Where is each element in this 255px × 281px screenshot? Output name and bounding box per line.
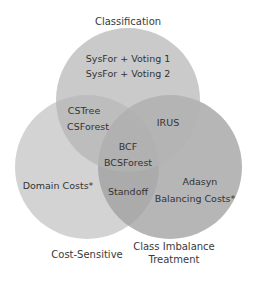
region-item: Adasyn <box>183 176 218 188</box>
region-item: SysFor + Voting 1 <box>86 53 171 65</box>
region-item: CSForest <box>67 121 109 133</box>
region-item: BCSForest <box>104 157 152 169</box>
region-item: Balancing Costs* <box>155 193 236 205</box>
region-item: SysFor + Voting 2 <box>86 68 171 80</box>
region-item: CSTree <box>68 105 100 117</box>
region-item: IRUS <box>157 117 179 129</box>
region-item: BCF <box>119 141 137 153</box>
classification-set-label: Classification <box>95 16 161 28</box>
region-item: Standoff <box>108 186 148 198</box>
class-imbalance-set-label-line1: Class Imbalance <box>133 241 215 253</box>
region-item: Domain Costs* <box>23 180 94 192</box>
class-imbalance-set-label-line2: Treatment <box>149 254 200 266</box>
cost-sensitive-set-label: Cost-Sensitive <box>51 249 122 261</box>
